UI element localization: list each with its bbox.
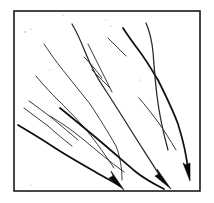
speck (92, 64, 93, 65)
speck (50, 70, 51, 71)
speck (24, 31, 25, 32)
speck (31, 185, 32, 186)
speck (140, 80, 141, 81)
canvas-background (0, 0, 214, 203)
branching-diagram-canvas (0, 0, 214, 203)
figure-container (0, 0, 214, 203)
speck (62, 14, 63, 15)
speck (30, 28, 31, 29)
speck (41, 46, 42, 47)
speck (58, 101, 59, 102)
speck (111, 26, 112, 27)
speck (85, 62, 86, 63)
speck (35, 105, 36, 106)
speck (106, 20, 107, 21)
speck (32, 101, 33, 102)
